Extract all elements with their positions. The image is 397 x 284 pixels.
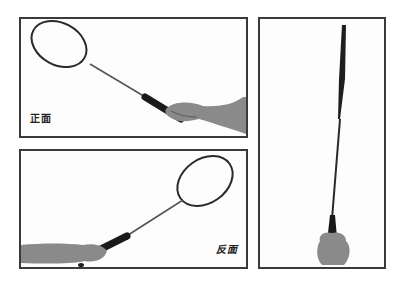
racket-front-illustration [21,19,246,136]
hand-arm [165,97,246,134]
racket-back-illustration [21,151,246,267]
racket-side-illustration [260,19,384,267]
thumb-shadow [78,263,84,267]
caption-front: 正面 [30,110,52,125]
caption-back: 反面 [216,241,238,256]
panel-back-view: 反面 [19,149,248,269]
panel-front-view: 正面 [19,17,248,138]
racket-shaft [332,119,340,219]
hand-arm [21,244,107,264]
panel-side-view [258,17,386,269]
racket-head-edge [338,25,346,119]
racket-shaft [90,64,147,98]
hand [317,232,349,265]
racket-head [24,19,95,76]
racket-head [168,151,242,216]
racket-shaft [125,200,183,237]
